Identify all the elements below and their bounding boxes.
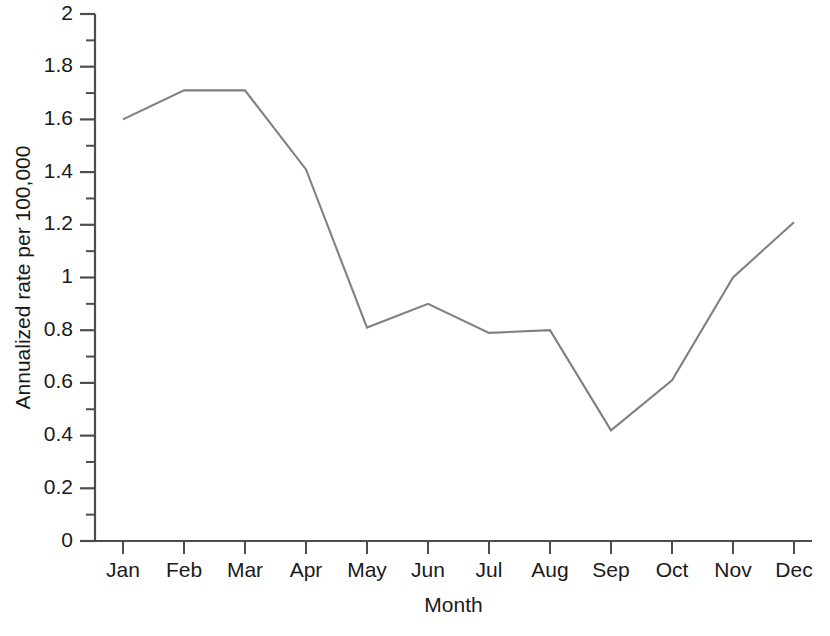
x-tick-label: Sep bbox=[592, 558, 629, 581]
y-tick-label: 0.6 bbox=[44, 369, 73, 392]
line-chart: 00.20.40.60.811.21.41.61.82 JanFebMarApr… bbox=[0, 0, 830, 636]
y-tick-label: 0.8 bbox=[44, 317, 73, 340]
x-tick-label: Mar bbox=[227, 558, 263, 581]
x-tick-label: Aug bbox=[531, 558, 568, 581]
x-tick-label: Oct bbox=[656, 558, 689, 581]
chart-canvas: 00.20.40.60.811.21.41.61.82 JanFebMarApr… bbox=[0, 0, 830, 636]
y-tick-label: 0.4 bbox=[44, 422, 74, 445]
y-tick-label: 0.2 bbox=[44, 475, 73, 498]
y-tick-label: 1.8 bbox=[44, 53, 73, 76]
x-tick-label: Jul bbox=[476, 558, 503, 581]
x-axis-title: Month bbox=[424, 593, 482, 616]
y-tick-label: 1.6 bbox=[44, 106, 73, 129]
x-tick-label: Apr bbox=[290, 558, 323, 581]
y-tick-label: 1.4 bbox=[44, 159, 74, 182]
x-tick-label: May bbox=[347, 558, 387, 581]
x-tick-label: Jun bbox=[411, 558, 445, 581]
x-tick-label: Dec bbox=[775, 558, 812, 581]
y-axis-title: Annualized rate per 100,000 bbox=[11, 146, 34, 410]
x-tick-label: Feb bbox=[166, 558, 202, 581]
x-tick-label: Nov bbox=[714, 558, 752, 581]
x-tick-label: Jan bbox=[106, 558, 140, 581]
y-tick-label: 2 bbox=[61, 1, 73, 24]
y-tick-label: 0 bbox=[61, 528, 73, 551]
y-tick-label: 1 bbox=[61, 264, 73, 287]
y-tick-label: 1.2 bbox=[44, 211, 73, 234]
